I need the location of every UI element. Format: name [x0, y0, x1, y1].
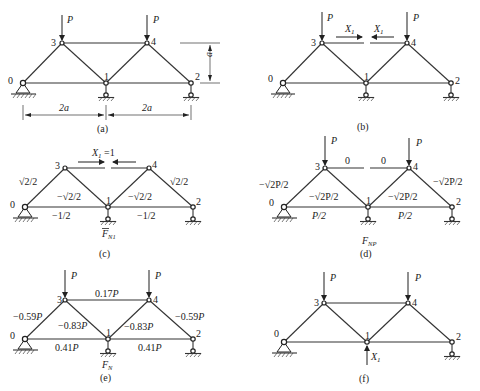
load-label: P — [329, 272, 336, 283]
panel-d: P P 0 0 0 1 2 3 4 −√2P/2 −√2P/2 −√2P/2 −… — [259, 135, 462, 260]
unit-force-label: X1 =1 — [91, 147, 115, 160]
truss-figure: P P 0 1 2 3 4 a 2a 2a (a) — [0, 0, 480, 391]
node-2 — [191, 337, 195, 341]
node-label: 3 — [315, 161, 320, 172]
node-label: 1 — [366, 195, 371, 206]
diagram-label: FNP — [361, 235, 376, 247]
node-label: 4 — [412, 297, 417, 308]
node-4 — [406, 301, 410, 305]
node-label: 1 — [364, 71, 369, 82]
reaction-label: X1 — [370, 351, 381, 364]
node-label: 2 — [195, 71, 200, 82]
redundant-label: X1 — [344, 23, 355, 36]
node-4 — [405, 41, 409, 45]
panel-caption: (e) — [100, 372, 111, 384]
node-3 — [320, 41, 324, 45]
member-force-label: −√2P/2 — [259, 179, 288, 190]
node-0 — [20, 80, 25, 85]
member-force-label: −√2P/2 — [388, 191, 417, 202]
node-label: 3 — [311, 37, 316, 48]
node-label: 0 — [268, 73, 273, 84]
node-2 — [189, 81, 193, 85]
load-label: P — [66, 14, 73, 25]
dimension-label-span: 2a — [59, 102, 69, 113]
load-label: P — [412, 12, 419, 23]
node-label: 0 — [274, 328, 279, 339]
member-force-label: 0.17P — [95, 288, 119, 299]
node-2 — [191, 205, 195, 209]
member-force-label: √2/2 — [170, 176, 188, 187]
node-4 — [145, 41, 149, 45]
member-force-label: √2/2 — [19, 176, 37, 187]
node-label: 1 — [106, 327, 111, 338]
node-0 — [280, 80, 285, 85]
node-3 — [60, 41, 64, 45]
member-force-label: −√2/2 — [57, 191, 81, 202]
node-0 — [281, 339, 286, 344]
node-label: 2 — [196, 196, 201, 207]
member-force-label: −√2P/2 — [433, 176, 462, 187]
panel-caption: (a) — [97, 123, 108, 135]
diagram-label: FN1 — [101, 228, 116, 240]
panel-caption: (d) — [360, 248, 372, 260]
node-2 — [450, 340, 454, 344]
node-label: 2 — [456, 196, 461, 207]
panel-a: P P 0 1 2 3 4 a 2a 2a (a) — [8, 14, 220, 135]
member-force-label: 0 — [381, 155, 386, 166]
load-label: P — [330, 135, 337, 146]
member-force-label: −0.59P — [13, 311, 42, 322]
node-label: 0 — [8, 75, 13, 86]
node-4 — [147, 166, 151, 170]
node-0 — [22, 204, 27, 209]
node-label: 4 — [413, 161, 418, 172]
member-force-label: P/2 — [397, 210, 412, 221]
node-label: 3 — [51, 37, 56, 48]
node-label: 4 — [411, 37, 416, 48]
node-4 — [407, 166, 411, 170]
panel-caption: (f) — [359, 373, 369, 385]
panel-caption: (b) — [357, 121, 369, 133]
node-3 — [323, 166, 327, 170]
dimension-label-height: a — [203, 52, 214, 57]
member-force-label: 0 — [345, 155, 350, 166]
panel-e: P P 0.17P 0 1 2 3 4 −0.59P −0.83P −0.83P… — [10, 270, 204, 384]
member-force-label: −√2P/2 — [309, 191, 338, 202]
node-label: 3 — [55, 160, 60, 171]
node-3 — [63, 298, 67, 302]
node-2 — [449, 81, 453, 85]
node-label: 0 — [10, 199, 15, 210]
node-label: 1 — [106, 195, 111, 206]
load-label: P — [415, 137, 422, 148]
member-force-label: 0.41P — [55, 342, 79, 353]
load-label: P — [152, 14, 159, 25]
node-label: 1 — [104, 71, 109, 82]
node-label: 4 — [152, 159, 157, 170]
panel-caption: (c) — [99, 248, 110, 260]
node-label: 0 — [10, 330, 15, 341]
panel-b: P P X1 X1 0 1 2 3 4 (b) — [268, 12, 460, 133]
node-0 — [22, 336, 27, 341]
node-3 — [63, 166, 67, 170]
node-label: 0 — [269, 197, 274, 208]
node-label: 2 — [456, 331, 461, 342]
node-4 — [147, 298, 151, 302]
member-force-label: −0.83P — [58, 320, 87, 331]
node-label: 2 — [455, 75, 460, 86]
panel-f: P P X1 0 1 2 3 4 (f) — [272, 272, 461, 385]
dimension-label-span: 2a — [142, 102, 152, 113]
load-label: P — [414, 272, 421, 283]
member-force-label: −0.59P — [175, 311, 204, 322]
member-force-label: −0.83P — [124, 321, 153, 332]
member-force-label: P/2 — [311, 210, 326, 221]
member-force-label: −1/2 — [52, 210, 70, 221]
member-force-label: −√2/2 — [128, 191, 152, 202]
member-force-label: −1/2 — [137, 210, 155, 221]
node-label: 3 — [57, 294, 62, 305]
redundant-label: X1 — [373, 23, 384, 36]
node-3 — [322, 301, 326, 305]
load-label: P — [70, 270, 77, 281]
node-label: 1 — [365, 330, 370, 341]
panel-c: X1 =1 0 1 2 3 4 √2/2 −√2/2 −√2/2 √2/2 −1… — [10, 147, 201, 260]
diagram-label: FN — [101, 359, 113, 371]
node-label: 3 — [314, 297, 319, 308]
